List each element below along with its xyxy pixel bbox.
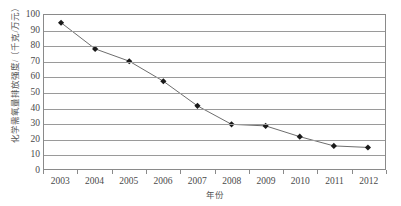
- x-tickmark: [146, 170, 147, 174]
- y-tick-label: 100: [14, 9, 40, 19]
- chart-container: 化学需氧量排放强度/（千克/万元） 0102030405060708090100…: [0, 0, 401, 206]
- y-tick-label: 30: [14, 118, 40, 128]
- data-point-marker: [365, 144, 371, 150]
- x-tickmark: [43, 170, 44, 174]
- plot-area: [43, 14, 386, 170]
- gridline: [44, 140, 385, 141]
- x-tickmark: [215, 170, 216, 174]
- x-tickmark: [352, 170, 353, 174]
- gridline: [44, 93, 385, 94]
- y-axis-tick-labels: 0102030405060708090100: [14, 14, 40, 170]
- gridline: [44, 124, 385, 125]
- x-tickmark: [180, 170, 181, 174]
- y-tick-label: 0: [14, 165, 40, 175]
- x-tick-label: 2012: [349, 176, 389, 187]
- line-series: [44, 15, 385, 169]
- gridline: [44, 46, 385, 47]
- x-tickmark: [77, 170, 78, 174]
- x-tickmark: [317, 170, 318, 174]
- y-tick-label: 50: [14, 87, 40, 97]
- series-line: [61, 23, 368, 148]
- x-axis-title: 年份: [43, 190, 386, 200]
- gridline: [44, 109, 385, 110]
- gridline: [44, 31, 385, 32]
- x-tickmark: [386, 170, 387, 174]
- y-tick-label: 10: [14, 149, 40, 159]
- y-tick-label: 70: [14, 56, 40, 66]
- data-point-marker: [297, 134, 303, 140]
- x-tickmark: [283, 170, 284, 174]
- y-tick-label: 80: [14, 40, 40, 50]
- y-tick-label: 90: [14, 25, 40, 35]
- x-tickmark: [249, 170, 250, 174]
- x-tickmark: [112, 170, 113, 174]
- y-tick-label: 40: [14, 103, 40, 113]
- data-point-marker: [331, 143, 337, 149]
- gridline: [44, 62, 385, 63]
- gridline: [44, 77, 385, 78]
- y-tick-label: 60: [14, 71, 40, 81]
- y-tick-label: 20: [14, 134, 40, 144]
- gridline: [44, 155, 385, 156]
